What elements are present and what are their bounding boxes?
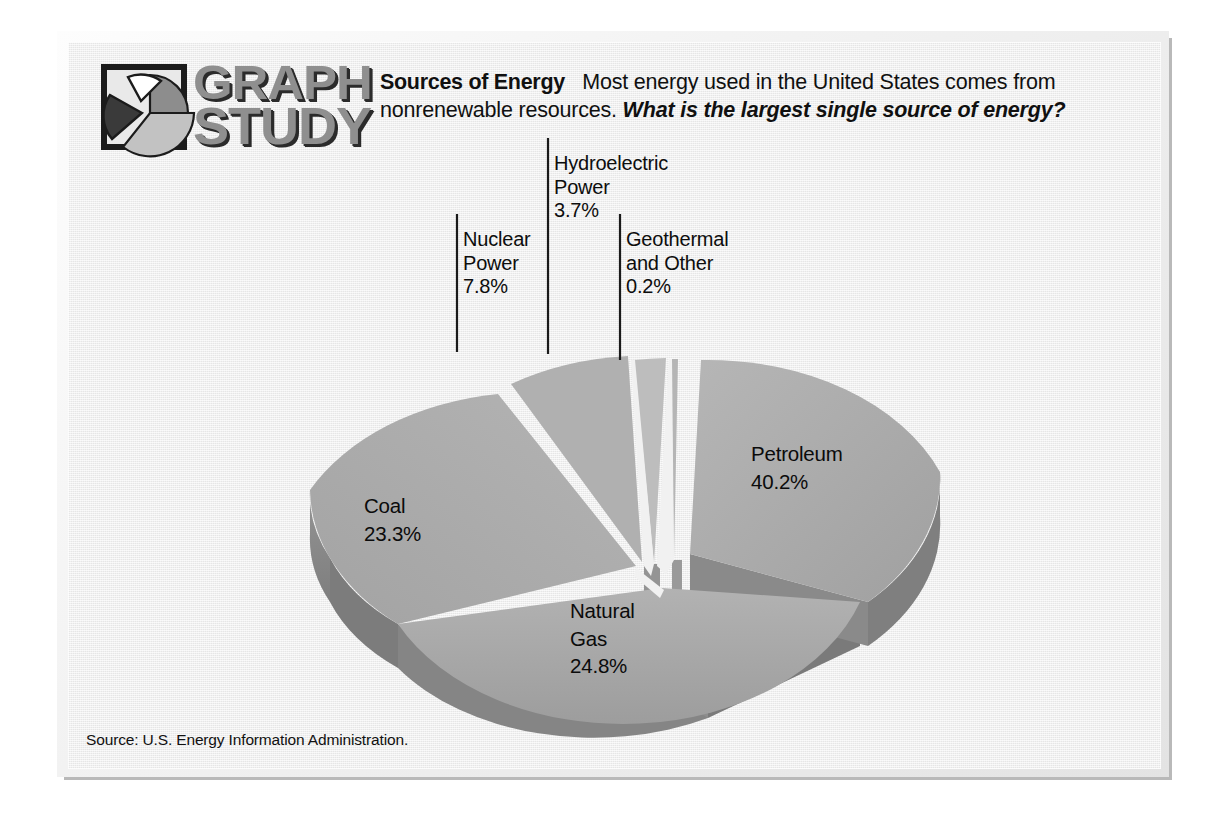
slice-side-geothermal bbox=[672, 560, 682, 590]
slice-label-natural-gas: Natural Gas 24.8% bbox=[570, 597, 635, 680]
callout-geothermal-and-other: Geothermal and Other 0.2% bbox=[626, 228, 729, 299]
pie-chart: Nuclear Power 7.8% Hydroelectric Power 3… bbox=[68, 42, 1161, 769]
figure-panel: GRAPH STUDY Sources of Energy Most energ… bbox=[68, 42, 1161, 769]
callout-nuclear-power: Nuclear Power 7.8% bbox=[463, 228, 531, 299]
source-note: Source: U.S. Energy Information Administ… bbox=[86, 731, 408, 749]
slice-label-coal: Coal 23.3% bbox=[364, 492, 421, 547]
graph-study-figure: GRAPH STUDY Sources of Energy Most energ… bbox=[0, 0, 1230, 839]
slice-label-petroleum: Petroleum 40.2% bbox=[751, 440, 843, 495]
callout-hydroelectric-power: Hydroelectric Power 3.7% bbox=[554, 152, 668, 223]
